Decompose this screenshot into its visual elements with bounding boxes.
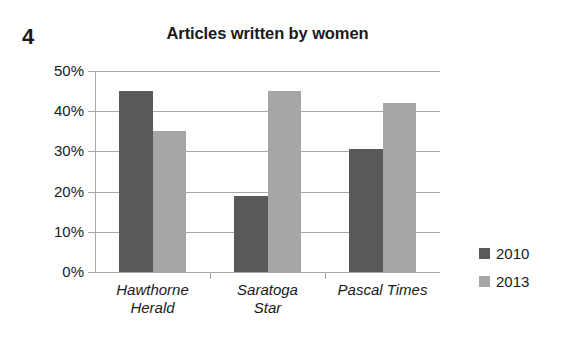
x-axis-label-line: Star xyxy=(210,299,325,317)
legend-label: 2010 xyxy=(496,246,529,261)
y-axis-tick xyxy=(88,111,95,112)
bar-2010-3 xyxy=(349,149,382,272)
x-axis-label-line: Herald xyxy=(95,299,210,317)
x-axis-label-line: Pascal Times xyxy=(325,281,440,299)
x-axis-category-label: SaratogaStar xyxy=(210,281,325,318)
x-axis-label-line: Saratoga xyxy=(210,281,325,299)
y-axis-label: 20% xyxy=(32,184,84,199)
x-axis-baseline xyxy=(95,272,440,273)
x-axis-category-label: Pascal Times xyxy=(325,281,440,299)
y-axis-label: 50% xyxy=(32,63,84,78)
legend-item-2010[interactable]: 2010 xyxy=(479,239,569,267)
bar-2013-1 xyxy=(153,131,186,272)
chart-figure: 4 Articles written by women 0%10%20%30%4… xyxy=(0,0,573,356)
legend-item-2013[interactable]: 2013 xyxy=(479,267,569,295)
y-axis-tick xyxy=(88,272,95,273)
y-axis-label: 0% xyxy=(32,264,84,279)
chart-legend: 20102013 xyxy=(479,239,569,295)
plot-area xyxy=(95,71,440,272)
y-axis-label: 10% xyxy=(32,224,84,239)
legend-swatch-icon xyxy=(479,276,490,287)
bar-2013-3 xyxy=(383,103,416,272)
y-axis-tick-labels: 0%10%20%30%40%50% xyxy=(30,0,84,356)
y-axis-tick xyxy=(88,151,95,152)
y-axis-label: 40% xyxy=(32,103,84,118)
x-axis-tick xyxy=(210,272,211,279)
x-axis-label-line: Hawthorne xyxy=(95,281,210,299)
gridline xyxy=(95,71,440,72)
bar-2010-2 xyxy=(234,196,267,272)
x-axis-tick xyxy=(325,272,326,279)
y-axis-tick xyxy=(88,71,95,72)
bar-2010-1 xyxy=(119,91,152,272)
y-axis-tick xyxy=(88,232,95,233)
chart-title: Articles written by women xyxy=(95,24,440,43)
legend-swatch-icon xyxy=(479,248,490,259)
y-axis-label: 30% xyxy=(32,143,84,158)
x-axis-category-label: HawthorneHerald xyxy=(95,281,210,318)
y-axis-tick xyxy=(88,192,95,193)
legend-label: 2013 xyxy=(496,274,529,289)
bar-2013-2 xyxy=(268,91,301,272)
